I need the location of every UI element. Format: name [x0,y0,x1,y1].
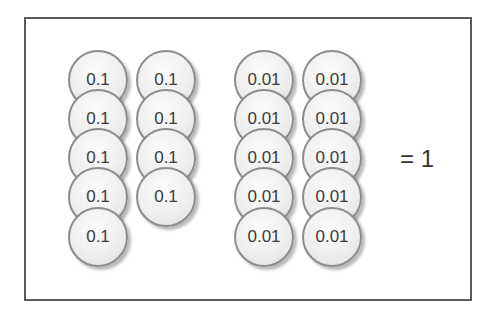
hundredth-coin: 0.01 [234,207,294,267]
equals-result: = 1 [400,145,434,173]
tenth-coin: 0.1 [136,167,196,227]
hundredth-coin: 0.01 [302,207,362,267]
tenth-coin: 0.1 [68,207,128,267]
